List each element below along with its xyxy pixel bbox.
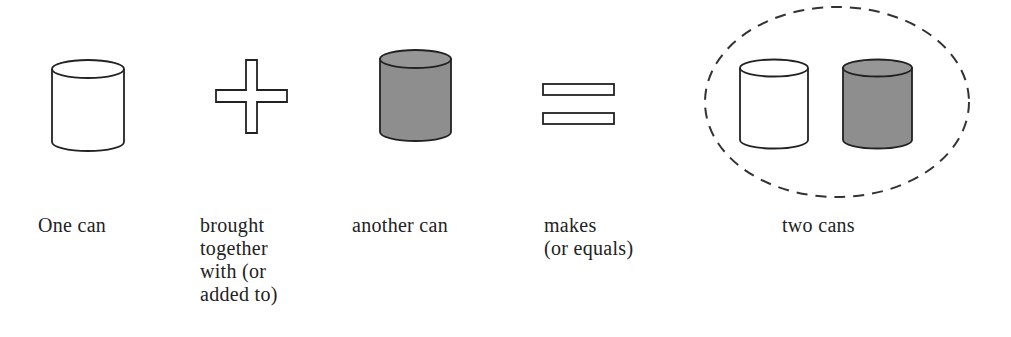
gray-can-icon	[380, 50, 451, 141]
white-can-icon	[740, 60, 808, 149]
label-brought-together: brought together with (or added to)	[200, 214, 278, 306]
two-cans-group-icon	[705, 7, 969, 197]
label-makes-equals: makes (or equals)	[544, 214, 633, 260]
label-another-can: another can	[352, 214, 448, 237]
equals-icon	[543, 84, 614, 124]
white-can-icon	[52, 60, 124, 151]
label-two-cans: two cans	[782, 214, 855, 237]
addition-diagram	[0, 0, 1011, 337]
gray-can-icon	[843, 60, 912, 149]
label-one-can: One can	[38, 214, 106, 237]
plus-icon	[216, 60, 287, 133]
